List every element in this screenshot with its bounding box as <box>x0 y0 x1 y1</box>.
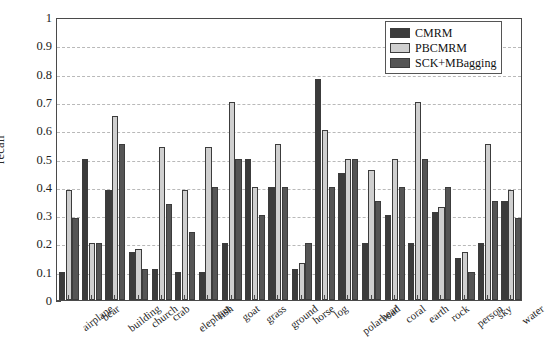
y-tick-label: 0.6 <box>18 125 52 138</box>
bar <box>235 159 241 301</box>
gridline <box>57 189 521 190</box>
bar-group <box>199 19 219 300</box>
gridline <box>57 217 521 218</box>
bar <box>72 218 78 300</box>
bar-group <box>315 19 335 300</box>
bar <box>492 201 498 300</box>
bar <box>438 207 444 300</box>
x-tick-mark <box>510 295 511 300</box>
bar-group <box>105 19 125 300</box>
bar <box>329 187 335 300</box>
legend-swatch-icon <box>390 28 410 38</box>
gridline <box>57 274 521 275</box>
legend-label: CMRM <box>415 27 452 39</box>
bar <box>66 190 72 300</box>
legend-swatch-icon <box>390 58 410 68</box>
gridline <box>57 76 521 77</box>
x-tick-mark <box>324 295 325 300</box>
x-tick-mark <box>371 295 372 300</box>
bar <box>368 170 374 300</box>
bar <box>445 187 451 300</box>
bar-group <box>362 19 382 300</box>
bar <box>455 258 461 300</box>
bar <box>282 187 288 300</box>
bar-group <box>222 19 242 300</box>
bar <box>485 144 491 300</box>
bar <box>275 144 281 300</box>
bar <box>515 218 521 300</box>
y-axis-label: recall <box>0 135 8 164</box>
legend-item: PBCMRM <box>390 40 496 55</box>
y-tick-label: 0.7 <box>18 97 52 110</box>
y-tick-label: 0.4 <box>18 182 52 195</box>
x-tick-mark <box>277 295 278 300</box>
x-tick-mark <box>301 295 302 300</box>
bar <box>82 159 88 301</box>
bar <box>245 159 251 301</box>
bar <box>268 187 274 300</box>
bar <box>338 173 344 300</box>
x-axis-tick-marks <box>56 295 522 302</box>
bar <box>105 190 111 300</box>
bar <box>166 204 172 300</box>
bar <box>229 102 235 300</box>
bar <box>478 243 484 300</box>
bar <box>462 252 468 300</box>
legend-item: SCK+MBagging <box>390 55 496 70</box>
y-tick-label: 0.2 <box>18 238 52 251</box>
bar-group <box>152 19 172 300</box>
gridline <box>57 245 521 246</box>
legend-label: PBCMRM <box>415 42 467 54</box>
y-tick-label: 0 <box>18 295 52 308</box>
bar-group <box>501 19 521 300</box>
x-tick-mark <box>91 295 92 300</box>
bar-group <box>175 19 195 300</box>
bar <box>392 159 398 301</box>
x-tick-label: rock <box>449 303 471 324</box>
x-tick-mark <box>161 295 162 300</box>
bar <box>322 130 328 300</box>
bar <box>112 116 118 300</box>
bar <box>305 243 311 300</box>
gridline <box>57 161 521 162</box>
x-tick-mark <box>394 295 395 300</box>
bar-group <box>292 19 312 300</box>
x-tick-mark <box>464 295 465 300</box>
bar <box>89 243 95 300</box>
bar-group <box>268 19 288 300</box>
bar <box>222 243 228 300</box>
bar <box>352 159 358 301</box>
y-tick-label: 0.9 <box>18 40 52 53</box>
bar <box>119 144 125 300</box>
bar-group <box>245 19 265 300</box>
bar <box>422 159 428 301</box>
gridline <box>57 104 521 105</box>
legend-item: CMRM <box>390 25 496 40</box>
x-tick-label: grass <box>264 303 289 325</box>
x-tick-mark <box>184 295 185 300</box>
legend: CMRMPBCMRMSCK+MBagging <box>385 21 502 74</box>
bar <box>96 243 102 300</box>
legend-swatch-icon <box>390 43 410 53</box>
x-tick-label: log <box>332 303 350 320</box>
x-tick-mark <box>207 295 208 300</box>
x-tick-mark <box>347 295 348 300</box>
bar <box>205 147 211 300</box>
bar-group <box>59 19 79 300</box>
bar <box>135 249 141 300</box>
y-tick-label: 0.5 <box>18 153 52 166</box>
x-tick-mark <box>487 295 488 300</box>
bar <box>362 243 368 300</box>
x-tick-mark <box>138 295 139 300</box>
bar <box>129 252 135 300</box>
bar <box>399 187 405 300</box>
x-tick-label: goat <box>240 303 262 323</box>
bar <box>432 212 438 300</box>
y-tick-label: 0.8 <box>18 68 52 81</box>
y-tick-label: 0.1 <box>18 266 52 279</box>
y-tick-label: 0.3 <box>18 210 52 223</box>
y-axis-tick-labels: 00.10.20.30.40.50.60.70.80.91 <box>14 18 52 301</box>
bar <box>415 102 421 300</box>
x-axis-tick-labels: airplanebearbuildingchurchcrabelephantfi… <box>56 303 542 353</box>
